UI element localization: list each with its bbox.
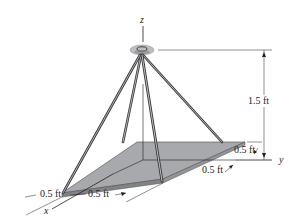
y-axis-label: y xyxy=(278,154,284,165)
x-left-label: 0.5 ft xyxy=(40,188,61,199)
rectangular-plate xyxy=(62,84,245,197)
height-label: 1.5 ft xyxy=(248,95,269,106)
ring-support xyxy=(130,45,154,55)
x-right-label: 0.5 ft xyxy=(88,188,109,199)
z-axis-label: z xyxy=(139,14,144,25)
x-axis-label: x xyxy=(43,205,49,216)
diagram-canvas: z xyxy=(0,0,300,224)
y-offset-top-label: 0.5 ft xyxy=(234,144,255,155)
y-offset-bottom-label: 0.5 ft xyxy=(202,164,223,175)
statics-diagram: z xyxy=(0,0,300,224)
z-axis: z xyxy=(139,14,144,42)
y-axis: y xyxy=(235,154,284,165)
